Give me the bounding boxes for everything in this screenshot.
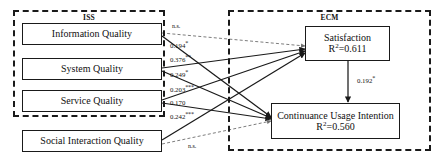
path-label-sq-to-cui-value: 0.249 — [170, 71, 185, 78]
node-satisfaction-r2-value: =0.611 — [339, 44, 367, 55]
path-label-sq-to-sat-stars: ** — [185, 54, 191, 60]
node-continuance-r2-value: =0.560 — [327, 121, 355, 132]
path-label-siq-to-cui-value: n.s. — [188, 143, 196, 149]
node-system-quality-label: System Quality — [61, 63, 123, 74]
node-continuance-usage-intention[interactable]: Continuance Usage Intention R2=0.560 — [271, 103, 400, 139]
node-continuance-usage-intention-r2: R2=0.560 — [316, 121, 354, 133]
path-label-sq-to-cui: 0.249* — [170, 69, 188, 78]
node-continuance-usage-intention-label: Continuance Usage Intention — [277, 110, 394, 121]
path-label-svq-to-sat-value: 0.203 — [170, 86, 185, 93]
node-information-quality[interactable]: Information Quality — [22, 23, 162, 45]
path-label-siq-to-sat: 0.242*** — [170, 111, 194, 120]
path-label-siq-to-sat-value: 0.242 — [170, 113, 185, 120]
group-title-iss: ISS — [13, 13, 165, 22]
path-label-svq-to-sat-stars: *** — [185, 84, 193, 90]
path-diagram: ISS ECM Information Quality System Quali… — [0, 0, 446, 161]
path-label-sat-to-cui-value: 0.192 — [357, 77, 372, 84]
path-label-sq-to-sat-value: 0.376 — [170, 56, 185, 63]
path-label-svq-to-sat: 0.203*** — [170, 84, 194, 93]
path-label-iq-to-cui: 0.194* — [170, 40, 188, 49]
path-label-sq-to-sat: 0.376** — [170, 54, 191, 63]
path-label-sq-to-cui-stars: * — [185, 69, 188, 75]
path-label-iq-to-sat-value: n.s. — [172, 23, 180, 29]
node-information-quality-label: Information Quality — [52, 28, 132, 39]
path-label-sat-to-cui-stars: * — [372, 75, 375, 81]
node-system-quality[interactable]: System Quality — [22, 58, 162, 80]
node-satisfaction-label: Satisfaction — [324, 32, 371, 43]
node-social-interaction-quality-label: Social Interaction Quality — [40, 135, 143, 146]
path-label-iq-to-sat: n.s. — [172, 23, 180, 29]
node-satisfaction[interactable]: Satisfaction R2=0.611 — [305, 26, 390, 61]
node-satisfaction-r2: R2=0.611 — [329, 43, 367, 55]
node-social-interaction-quality[interactable]: Social Interaction Quality — [22, 130, 162, 152]
group-title-ecm: ECM — [228, 13, 431, 22]
node-service-quality-label: Service Quality — [61, 95, 123, 106]
path-label-svq-to-cui-value: 0.170 — [170, 99, 185, 106]
node-continuance-r2-prefix: R — [316, 121, 323, 132]
path-label-sat-to-cui: 0.192* — [357, 75, 375, 84]
path-label-iq-to-cui-value: 0.194 — [170, 42, 185, 49]
path-label-iq-to-cui-stars: * — [185, 40, 188, 46]
node-service-quality[interactable]: Service Quality — [22, 90, 162, 112]
path-label-svq-to-cui: 0.170 — [170, 97, 185, 106]
path-label-siq-to-cui: n.s. — [188, 143, 196, 149]
path-label-siq-to-sat-stars: *** — [185, 111, 193, 117]
